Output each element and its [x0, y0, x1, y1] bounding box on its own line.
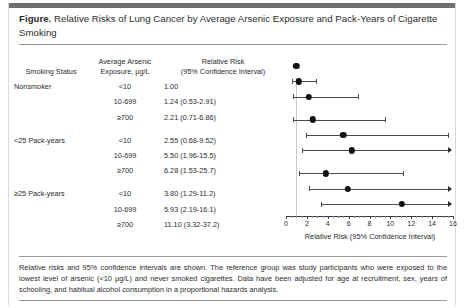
table-row: ≥7006.28 (1.53-25.7) — [14, 166, 286, 181]
x-axis-tick-label: 8 — [368, 220, 372, 227]
relative-risk-point-marker — [293, 63, 299, 69]
cell-arsenic-exposure: ≥700 — [90, 166, 160, 175]
x-axis-tick-major — [453, 216, 454, 219]
x-axis-tick-minor — [302, 216, 303, 218]
x-axis-tick-minor — [296, 216, 297, 218]
confidence-interval-truncation-arrow — [448, 147, 452, 153]
x-axis-tick-minor — [312, 216, 313, 218]
column-header-arsenic-exposure-line1: Average Arsenic — [90, 57, 160, 67]
cell-relative-risk: 11.10 (3.32-37.2) — [164, 220, 286, 229]
relative-risk-point-marker — [340, 132, 346, 138]
cell-arsenic-exposure: <10 — [90, 82, 160, 91]
figure-footnote: Relative risks and 95% confidence interv… — [19, 262, 447, 296]
relative-risk-point-marker — [345, 186, 351, 192]
confidence-interval-line — [306, 135, 447, 136]
relative-risk-point-marker — [309, 116, 315, 122]
forest-plot-canvas: 0246810121416 — [286, 52, 454, 247]
table-row: ≥25 Pack-years<103.80 (1.29-11.2) — [14, 189, 286, 204]
relative-risk-point-marker — [348, 147, 354, 153]
figure-label: Figure. — [19, 13, 51, 24]
cell-relative-risk: 1.00 — [164, 82, 286, 91]
cell-relative-risk: 3.80 (1.29-11.2) — [164, 189, 286, 198]
x-axis-tick-minor — [338, 216, 339, 218]
cell-smoking-status: ≥25 Pack-years — [14, 189, 92, 198]
column-header-arsenic-exposure-line2: Exposure, µg/L — [90, 67, 160, 77]
cell-arsenic-exposure: ≥700 — [90, 220, 160, 229]
cell-relative-risk: 5.50 (1.96-15.5) — [164, 151, 286, 160]
confidence-interval-cap-lower — [306, 133, 307, 138]
data-table: Smoking Status Average Arsenic Exposure,… — [14, 52, 286, 236]
x-axis-tick-minor — [448, 216, 449, 218]
confidence-interval-cap-upper — [316, 79, 317, 84]
cell-relative-risk: 6.28 (1.53-25.7) — [164, 166, 286, 175]
x-axis-tick-minor — [375, 216, 376, 218]
x-axis-tick-major — [286, 216, 287, 219]
figure-title: Figure. Relative Risks of Lung Cancer by… — [19, 12, 443, 39]
x-axis-tick-minor — [406, 216, 407, 218]
relative-risk-point-marker — [322, 170, 328, 176]
footnote-divider-top — [19, 256, 447, 257]
column-header-relative-risk: Relative Risk (95% Confidence Interval) — [160, 57, 286, 76]
confidence-interval-cap-lower — [302, 148, 303, 153]
table-row: ≥7002.21 (0.71-6.86) — [14, 113, 286, 128]
confidence-interval-truncation-arrow — [448, 201, 452, 207]
x-axis-tick-label: 10 — [386, 220, 394, 227]
column-header-relative-risk-line2: (95% Confidence Interval) — [160, 67, 286, 77]
forest-plot: 0246810121416 Relative Risk (95% Confide… — [286, 52, 458, 247]
column-header-arsenic-exposure: Average Arsenic Exposure, µg/L — [90, 57, 160, 76]
x-axis-tick-major — [432, 216, 433, 219]
x-axis-tick-major — [390, 216, 391, 219]
confidence-interval-line — [309, 189, 448, 190]
x-axis-tick-label: 16 — [449, 220, 457, 227]
table-header-row: Smoking Status Average Arsenic Exposure,… — [14, 52, 286, 82]
x-axis-tick-minor — [416, 216, 417, 218]
figure-title-text: Relative Risks of Lung Cancer by Average… — [19, 13, 437, 38]
relative-risk-point-marker — [399, 201, 405, 207]
x-axis-title: Relative Risk (95% Confidence Interval) — [286, 232, 454, 241]
confidence-interval-line — [302, 150, 448, 151]
x-axis-tick-label: 12 — [407, 220, 415, 227]
x-axis-tick-minor — [323, 216, 324, 218]
relative-risk-point-marker — [296, 78, 302, 84]
x-axis-tick-minor — [437, 216, 438, 218]
confidence-interval-cap-upper — [403, 171, 404, 176]
reference-line — [296, 78, 297, 216]
x-axis-tick-minor — [422, 216, 423, 218]
x-axis-tick-minor — [354, 216, 355, 218]
table-row: <25 Pack-years<102.55 (0.68-9.52) — [14, 136, 286, 151]
x-axis-tick-label: 2 — [305, 220, 309, 227]
cell-relative-risk: 2.55 (0.68-9.52) — [164, 136, 286, 145]
x-axis-tick-minor — [343, 216, 344, 218]
x-axis-tick-minor — [380, 216, 381, 218]
x-axis-tick-minor — [396, 216, 397, 218]
confidence-interval-line — [321, 204, 448, 205]
confidence-interval-cap-upper — [385, 117, 386, 122]
x-axis-tick-label: 4 — [326, 220, 330, 227]
confidence-interval-cap-lower — [309, 186, 310, 191]
cell-arsenic-exposure: 10-699 — [90, 205, 160, 214]
left-border-rule — [8, 3, 9, 305]
cell-relative-risk: 5.93 (2.19-16.1) — [164, 205, 286, 214]
cell-arsenic-exposure: <10 — [90, 189, 160, 198]
x-axis-tick-minor — [427, 216, 428, 218]
title-divider — [19, 44, 447, 45]
table-row: 10-6995.50 (1.96-15.5) — [14, 151, 286, 166]
confidence-interval-line — [293, 120, 385, 121]
column-header-smoking-status: Smoking Status — [14, 67, 88, 77]
confidence-interval-cap-lower — [293, 94, 294, 99]
x-axis-tick-minor — [333, 216, 334, 218]
x-axis-tick-minor — [443, 216, 444, 218]
x-axis-tick-major — [349, 216, 350, 219]
relative-risk-point-marker — [306, 94, 312, 100]
x-axis-tick-minor — [364, 216, 365, 218]
x-axis-tick-minor — [385, 216, 386, 218]
cell-arsenic-exposure: 10-699 — [90, 151, 160, 160]
x-axis-tick-major — [307, 216, 308, 219]
table-row: Nonsmoker<101.00 — [14, 82, 286, 97]
cell-arsenic-exposure: 10-699 — [90, 97, 160, 106]
x-axis-tick-label: 6 — [347, 220, 351, 227]
confidence-interval-cap-upper — [358, 94, 359, 99]
confidence-interval-cap-upper — [448, 133, 449, 138]
x-axis-tick-minor — [359, 216, 360, 218]
confidence-interval-cap-lower — [293, 117, 294, 122]
